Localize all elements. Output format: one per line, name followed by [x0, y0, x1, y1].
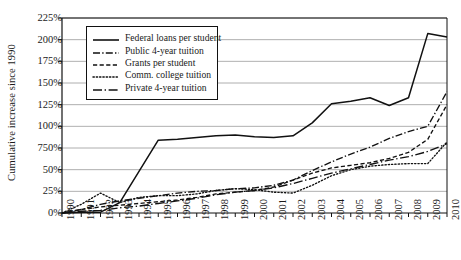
x-axis-tick-label: 2003: [317, 199, 327, 220]
x-axis-tick-label: 1994: [143, 199, 153, 220]
legend-item-2: Grants per student: [92, 57, 211, 69]
legend-item-3: Comm. college tuition: [92, 69, 211, 81]
legend-line-swatch: [92, 69, 120, 81]
x-axis-tick-label: 1995: [163, 199, 173, 220]
x-axis-tick-label: 2002: [297, 199, 307, 220]
legend-line-swatch: [92, 32, 120, 44]
x-axis-tick-label: 2009: [432, 199, 442, 220]
legend-item-1: Public 4-year tuition: [92, 44, 211, 56]
legend-item-4: Private 4-year tuition: [92, 82, 211, 94]
x-axis-tick-label: 1990: [66, 199, 76, 220]
x-axis-tick-label: 1998: [220, 199, 230, 220]
x-axis-tick-label: 1992: [105, 199, 115, 220]
x-axis-tick-label: 2004: [336, 199, 346, 220]
x-axis-tick-label: 2010: [451, 199, 461, 220]
legend-item-0: Federal loans per student: [92, 32, 211, 44]
legend-item-label: Public 4-year tuition: [125, 46, 204, 56]
x-axis-tick-label: 2005: [355, 199, 365, 220]
legend-item-label: Comm. college tuition: [125, 70, 211, 80]
legend-line-swatch: [92, 57, 120, 69]
x-axis-tick-label: 2000: [259, 199, 269, 220]
legend-item-label: Grants per student: [125, 58, 195, 68]
legend-line-swatch: [92, 82, 120, 94]
x-axis-tick-label: 2001: [278, 199, 288, 220]
x-axis-tick-label: 2006: [374, 199, 384, 220]
x-axis-tick-label: 1993: [124, 199, 134, 220]
legend-item-label: Federal loans per student: [125, 33, 221, 43]
legend-item-label: Private 4-year tuition: [125, 83, 207, 93]
x-axis-tick-label: 2008: [413, 199, 423, 220]
x-axis-tick-label: 1996: [182, 199, 192, 220]
x-axis-tick-label: 1991: [86, 199, 96, 220]
x-axis-tick-label: 1999: [240, 199, 250, 220]
legend-line-swatch: [92, 45, 120, 57]
x-axis-tick-label: 1997: [201, 199, 211, 220]
chart-legend: Federal loans per studentPublic 4-year t…: [86, 26, 218, 100]
x-axis-tick-label: 2007: [394, 199, 404, 220]
